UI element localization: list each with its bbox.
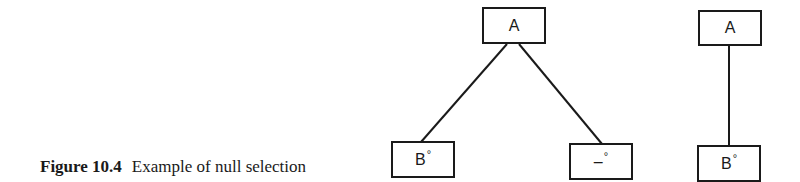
- tree1-child-b-superscript: °: [427, 148, 431, 160]
- tree2-child-b-superscript: °: [733, 152, 737, 164]
- tree1-child-null-node: –°: [569, 143, 633, 180]
- tree1-child-b-label: B: [415, 151, 426, 169]
- tree2-child-b-label: B: [721, 155, 732, 173]
- tree2-child-b-node: B°: [697, 145, 761, 182]
- tree2-root-label: A: [725, 19, 736, 37]
- tree1-child-null-label: –: [594, 153, 603, 171]
- edge-tree1-a-to-null: [519, 44, 602, 144]
- tree2-root-node: A: [698, 10, 762, 46]
- edge-tree1-a-to-b: [421, 44, 507, 142]
- tree1-root-node: A: [482, 7, 546, 44]
- tree1-child-null-superscript: °: [604, 150, 608, 162]
- tree1-child-b-node: B°: [391, 141, 455, 178]
- figure-canvas: A B° –° A B° Figure 10.4Example of null …: [0, 0, 800, 182]
- figure-caption: Figure 10.4Example of null selection: [40, 157, 306, 177]
- figure-caption-text: Example of null selection: [132, 157, 306, 176]
- tree1-root-label: A: [509, 17, 520, 35]
- figure-number: Figure 10.4: [40, 157, 122, 176]
